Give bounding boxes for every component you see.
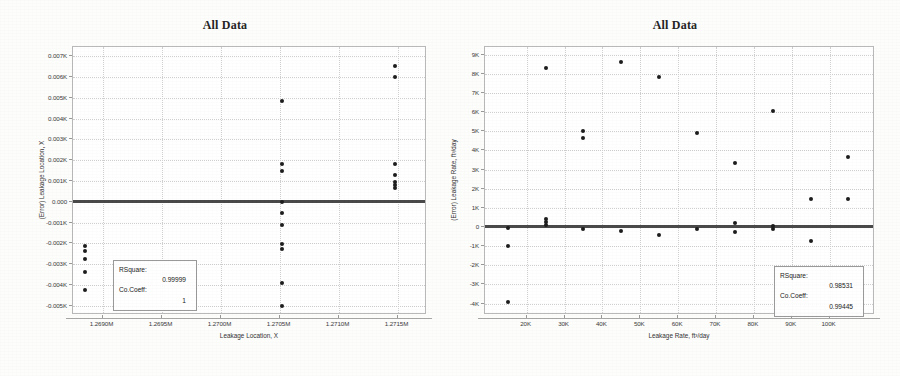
data-point [280, 242, 284, 246]
gridline-horizontal [73, 139, 425, 140]
data-point [695, 227, 699, 231]
reference-line [485, 225, 873, 228]
cocoeff-value-right: 0.99445 [780, 302, 857, 312]
scatter-plot-sheet: All Data 0.007K0.006K0.005K0.004K0.003K0… [0, 0, 900, 376]
y-tick-mark [69, 118, 72, 119]
data-point [809, 239, 813, 243]
gridline-horizontal [73, 181, 425, 182]
data-point [280, 169, 284, 173]
gridline-vertical [754, 47, 755, 313]
x-tick-label: 1.2695M [149, 320, 172, 327]
y-tick-label: 9K [472, 50, 479, 57]
data-point [83, 244, 87, 248]
y-tick-label: 3K [472, 165, 479, 172]
y-tick-label: 0 [476, 222, 479, 229]
chart-panel-right: All Data 9K8K7K6K5K4K3K2K1K0-1K-2K-3K-4K… [450, 0, 900, 376]
y-tick-mark [481, 169, 484, 170]
y-tick-label: 6K [472, 108, 479, 115]
x-tick-label: 80K [747, 320, 758, 327]
y-tick-label: -0.004K [46, 280, 67, 287]
x-tick-label: 50K [634, 320, 645, 327]
cocoeff-label-right: Co.Coeff: [780, 291, 857, 301]
data-point [83, 249, 87, 253]
y-tick-mark [481, 283, 484, 284]
x-tick-label: 1.2690M [90, 320, 113, 327]
y-tick-label: 0.007K [48, 52, 67, 59]
y-tick-mark [69, 284, 72, 285]
y-tick-mark [481, 149, 484, 150]
y-tick-mark [69, 180, 72, 181]
y-tick-mark [69, 305, 72, 306]
gridline-vertical [716, 47, 717, 313]
data-point [280, 99, 284, 103]
y-tick-mark [481, 264, 484, 265]
data-point [733, 161, 737, 165]
x-tick-label: 1.2700M [208, 320, 231, 327]
data-point [280, 304, 284, 308]
y-tick-mark [69, 138, 72, 139]
y-tick-mark [481, 245, 484, 246]
gridline-horizontal [73, 77, 425, 78]
y-tick-label: 7K [472, 88, 479, 95]
data-point [83, 288, 87, 292]
y-tick-label: 0.000 [52, 197, 67, 204]
y-tick-mark [69, 97, 72, 98]
gridline-vertical [398, 47, 399, 313]
y-tick-label: -0.002K [46, 239, 67, 246]
data-point [733, 230, 737, 234]
data-point [733, 221, 737, 225]
data-point [280, 162, 284, 166]
y-tick-label: 8K [472, 69, 479, 76]
y-tick-label: 1K [472, 203, 479, 210]
x-tick-label: 1.2710M [326, 320, 349, 327]
y-tick-label: -0.005K [46, 301, 67, 308]
data-point [846, 197, 850, 201]
y-tick-label: 0.002K [48, 156, 67, 163]
x-tick-label: 70K [710, 320, 721, 327]
data-point [771, 227, 775, 231]
y-tick-mark [481, 111, 484, 112]
y-tick-label: 0.005K [48, 93, 67, 100]
y-tick-label: 0.003K [48, 135, 67, 142]
data-point [506, 226, 510, 230]
y-tick-mark [481, 303, 484, 304]
data-point [846, 155, 850, 159]
data-point [771, 109, 775, 113]
y-tick-label: 2K [472, 184, 479, 191]
gridline-vertical [640, 47, 641, 313]
y-tick-mark [69, 159, 72, 160]
cocoeff-value-left: 1 [119, 296, 190, 306]
data-point [809, 197, 813, 201]
gridline-vertical [527, 47, 528, 313]
data-point [280, 211, 284, 215]
data-point [581, 227, 585, 231]
y-tick-mark [69, 201, 72, 202]
x-tick-label: 1.2715M [385, 320, 408, 327]
data-point [695, 131, 699, 135]
gridline-vertical [602, 47, 603, 313]
gridline-horizontal [73, 56, 425, 57]
data-point [83, 257, 87, 261]
data-point [581, 136, 585, 140]
rsquare-value-left: 0.99999 [119, 275, 190, 285]
x-tick-label: 90K [785, 320, 796, 327]
y-tick-label: -4K [470, 299, 479, 306]
data-point [544, 223, 548, 227]
y-tick-label: 4K [472, 146, 479, 153]
gridline-horizontal [73, 243, 425, 244]
data-point [657, 75, 661, 79]
data-point [280, 200, 284, 204]
data-point [506, 244, 510, 248]
y-tick-label: -0.003K [46, 260, 67, 267]
rsquare-value-right: 0.98531 [780, 281, 857, 291]
chart-title-right: All Data [450, 18, 900, 33]
gridline-vertical [678, 47, 679, 313]
data-point [506, 300, 510, 304]
x-tick-label: 30K [558, 320, 569, 327]
chart-title-left: All Data [0, 18, 450, 33]
data-point [393, 64, 397, 68]
x-tick-label: 40K [596, 320, 607, 327]
y-axis-label-left: (Error) Leakage Location, X [38, 46, 45, 314]
y-tick-label: 0.004K [48, 114, 67, 121]
gridline-horizontal [73, 223, 425, 224]
